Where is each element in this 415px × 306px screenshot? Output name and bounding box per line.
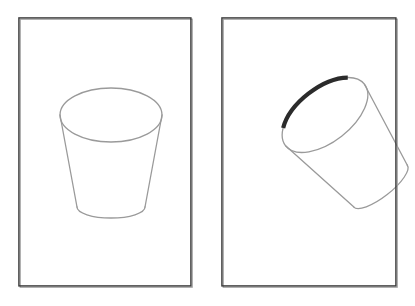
cup-body-left-side [60,115,77,207]
cup-body-right-side [352,84,415,165]
cup-base-arc [77,207,145,218]
cup-rim-ellipse [269,63,381,167]
cup-body-left-side [286,136,354,217]
tilted-cup-figure [221,17,398,288]
scene-canvas [0,0,415,306]
cup-base-arc [354,165,414,216]
panel-right-tilted-cup[interactable] [221,17,398,288]
tilted-cup-group [269,63,415,225]
panel-left-upright-cup[interactable] [18,17,193,288]
cup-body-right-side [145,115,162,207]
cup-rim-ellipse [60,88,162,142]
rim-highlight-arc [276,68,348,128]
upright-cup-figure [18,17,193,288]
